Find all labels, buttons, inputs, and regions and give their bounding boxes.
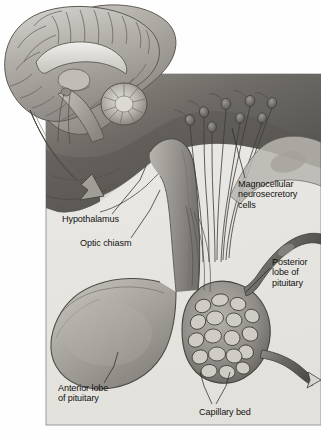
figure-canvas: Hypothalamus Optic chiasm Magnocellular … — [0, 0, 321, 434]
label-line: Magnocellular — [238, 179, 297, 189]
label-line: lobe of — [272, 267, 308, 277]
cerebellum — [101, 83, 147, 125]
label-line: pituitary — [272, 278, 308, 288]
label-line: of pituitary — [58, 393, 108, 403]
label-magnocellular-neurosecretory-cells: Magnocellular neurosecretory cells — [238, 179, 297, 210]
label-posterior-lobe-of-pituitary: Posterior lobe of pituitary — [272, 257, 308, 288]
label-line: cells — [238, 200, 297, 210]
illustration — [0, 0, 321, 434]
label-line: Posterior — [272, 257, 308, 267]
label-line: Anterior lobe — [58, 383, 108, 393]
label-optic-chiasm: Optic chiasm — [80, 238, 131, 248]
label-line: neurosecretory — [238, 189, 297, 199]
label-anterior-lobe-of-pituitary: Anterior lobe of pituitary — [58, 383, 108, 404]
label-hypothalamus: Hypothalamus — [62, 214, 119, 224]
label-capillary-bed: Capillary bed — [199, 407, 251, 417]
